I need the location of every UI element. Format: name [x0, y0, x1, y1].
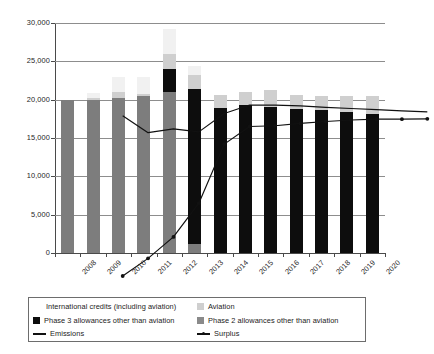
line-marker-surplus	[197, 201, 201, 205]
legend-item[interactable]: International credits (including aviatio…	[33, 302, 197, 311]
legend-entries: International credits (including aviatio…	[33, 300, 363, 341]
x-axis-tick	[207, 253, 208, 257]
y-axis-tick	[51, 215, 55, 216]
legend-line-icon	[33, 330, 46, 337]
y-axis-tick-label: 5,000	[0, 210, 50, 219]
line-marker-surplus	[400, 117, 404, 121]
x-axis-tick	[309, 253, 310, 257]
x-axis-tick-label: 2008	[80, 258, 98, 276]
y-axis-tick	[51, 61, 55, 62]
x-axis-tick	[80, 253, 81, 257]
legend-item[interactable]: Aviation	[197, 302, 363, 311]
line-marker-surplus	[349, 118, 353, 122]
y-axis-tick-label: 30,000	[0, 18, 50, 27]
y-axis-tick-label: 20,000	[0, 95, 50, 104]
x-axis-tick	[283, 253, 284, 257]
legend-item[interactable]: Surplus	[197, 329, 363, 338]
line-marker-surplus	[273, 124, 277, 128]
x-axis-tick	[55, 253, 56, 257]
chart-legend: International credits (including aviatio…	[28, 297, 366, 342]
x-axis-tick	[360, 253, 361, 257]
line-marker-surplus	[121, 274, 125, 278]
y-axis-tick-label: 10,000	[0, 171, 50, 180]
legend-label: Phase 2 allowances other than aviation	[208, 316, 339, 325]
bar-group	[61, 23, 74, 253]
plot-area: 05,00010,00015,00020,00025,00030,000 200…	[0, 0, 392, 292]
bar-segment-aviation	[87, 98, 100, 101]
y-axis-tick	[51, 138, 55, 139]
legend-swatch-aviation-icon	[197, 303, 204, 310]
y-axis-tick-label: 15,000	[0, 133, 50, 142]
x-axis-tick	[106, 253, 107, 257]
legend-line-marker-icon	[197, 330, 210, 337]
bar-segment-international-credits	[87, 93, 100, 98]
x-axis-tick	[131, 253, 132, 257]
plot-canvas	[55, 23, 385, 253]
y-axis-tick-label: 25,000	[0, 56, 50, 65]
bar-segment-phase2	[87, 100, 100, 253]
x-axis-tick	[258, 253, 259, 257]
bar-segment-phase2	[61, 100, 74, 253]
legend-label: Emissions	[50, 329, 84, 338]
x-axis-tick	[157, 253, 158, 257]
legend-label: Surplus	[214, 329, 239, 338]
legend-swatch-intl-icon	[33, 302, 42, 311]
x-axis-tick	[233, 253, 234, 257]
legend-label: International credits (including aviatio…	[46, 302, 176, 311]
legend-item[interactable]: Phase 2 allowances other than aviation	[197, 316, 363, 325]
line-marker-surplus	[324, 120, 328, 124]
x-axis-tick	[385, 253, 386, 257]
line-marker-surplus	[298, 122, 302, 126]
y-axis-tick	[51, 100, 55, 101]
bar-group	[87, 23, 100, 253]
legend-swatch-phase2-icon	[197, 317, 204, 324]
line-marker-surplus	[172, 235, 176, 239]
y-axis-tick	[51, 176, 55, 177]
legend-swatch-phase3-icon	[33, 317, 40, 324]
line-surplus	[123, 119, 428, 276]
line-marker-surplus	[146, 256, 150, 260]
line-marker-surplus	[248, 125, 252, 129]
x-axis-tick	[334, 253, 335, 257]
legend-label: Phase 3 allowances other than aviation	[44, 316, 175, 325]
legend-label: Aviation	[208, 302, 235, 311]
line-marker-surplus	[222, 142, 226, 146]
line-series-container	[110, 46, 434, 277]
x-axis-tick	[182, 253, 183, 257]
line-marker-surplus	[375, 117, 379, 121]
y-axis-tick-label: 0	[0, 248, 50, 257]
legend-item[interactable]: Emissions	[33, 329, 197, 338]
line-marker-surplus	[425, 117, 429, 121]
y-axis-tick	[51, 23, 55, 24]
legend-item[interactable]: Phase 3 allowances other than aviation	[33, 316, 197, 325]
